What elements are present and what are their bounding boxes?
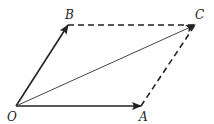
vector-parallelogram-diagram: B C O A xyxy=(0,0,214,124)
label-a: A xyxy=(138,110,148,124)
label-c: C xyxy=(195,8,204,22)
label-b: B xyxy=(64,8,74,22)
label-o: O xyxy=(7,110,17,124)
diagram-svg: B C O A xyxy=(0,0,214,124)
